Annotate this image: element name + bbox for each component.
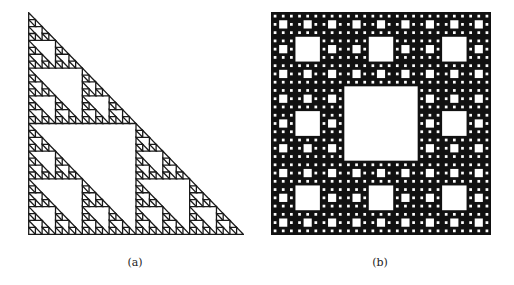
sierpinski-carpet-figure [271,12,491,235]
sierpinski-triangle-figure [28,12,244,235]
sierpinski-carpet-graphic [271,12,491,235]
sierpinski-triangle-graphic [28,12,244,235]
caption-a: (a) [115,256,155,269]
caption-b: (b) [360,256,400,269]
